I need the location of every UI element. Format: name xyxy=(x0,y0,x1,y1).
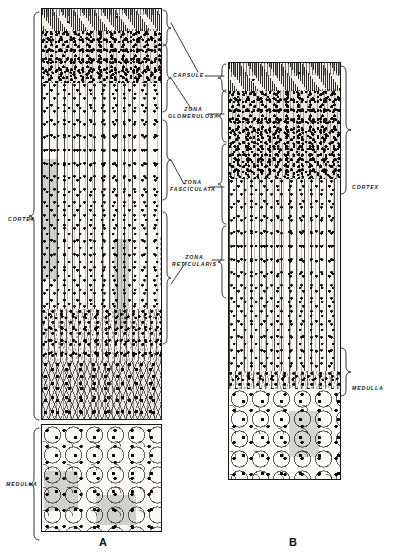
band-b-medulla xyxy=(229,389,340,479)
label-zona-glomerulosa: ZONA GLOMERULOSA xyxy=(168,106,219,120)
leader-capsule xyxy=(171,23,198,72)
bracket-b-glomerulosa xyxy=(218,90,226,142)
shading-b-med-1 xyxy=(289,411,319,457)
bracket-b-reticularis xyxy=(218,226,226,298)
band-b-glomerulosa xyxy=(229,91,340,179)
specimen-a-medulla-panel xyxy=(41,424,162,532)
label-zona-fasciculata: ZONA FASCICULATA xyxy=(170,179,216,193)
band-a-glomerulosa xyxy=(42,31,161,83)
shading-a-med-2 xyxy=(96,495,136,525)
label-medulla-b: MEDULLA xyxy=(352,385,384,392)
label-zona-reticularis: ZONA RETICULARIS xyxy=(172,254,217,268)
label-cortex-a: CORTEX xyxy=(8,216,35,223)
histology-figure: CAPSULE ZONA GLOMERULOSA ZONA FASCICULAT… xyxy=(0,0,396,560)
specimen-a-cortex-panel xyxy=(41,8,162,420)
bracket-b-cortex xyxy=(341,66,351,194)
band-a-fasciculata xyxy=(42,83,161,309)
bracket-a-reticularis xyxy=(163,212,171,344)
bracket-b-medulla xyxy=(341,348,351,396)
plate-label-a: A xyxy=(99,536,107,548)
plate-label-b: B xyxy=(289,536,297,548)
band-a-capsule xyxy=(42,9,161,31)
shading-a-1 xyxy=(42,159,58,279)
shading-a-2 xyxy=(114,239,128,329)
specimen-b-panel xyxy=(228,62,341,480)
shading-a-med-1 xyxy=(44,471,78,511)
bracket-a-glomerulosa xyxy=(163,44,171,112)
band-b-capsule xyxy=(229,63,340,91)
bracket-b-fasciculata xyxy=(218,144,226,224)
band-b-reticularis xyxy=(229,371,340,389)
bracket-b-capsule xyxy=(218,64,226,92)
bracket-a-capsule xyxy=(163,10,171,46)
label-medulla-a: MEDULLA xyxy=(6,481,38,488)
band-a-reticularis-deep xyxy=(42,361,161,419)
label-cortex-b: CORTEX xyxy=(352,184,379,191)
label-capsule: CAPSULE xyxy=(173,72,204,79)
band-b-fasciculata xyxy=(229,179,340,371)
band-a-reticularis xyxy=(42,309,161,361)
